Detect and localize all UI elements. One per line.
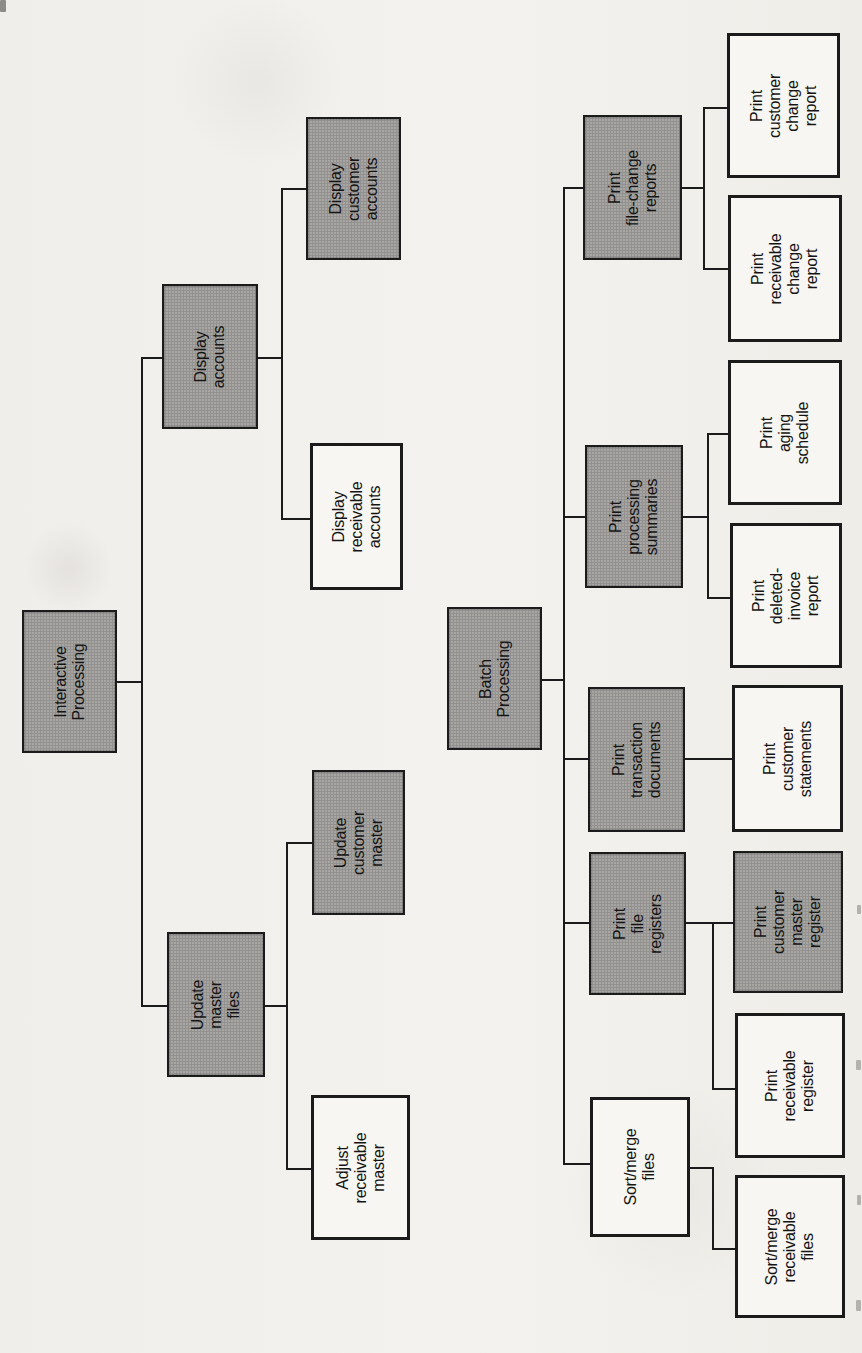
node-print-aging-schedule: Print aging schedule [728, 360, 842, 505]
node-print-file-change-reports: Print file-change reports [583, 115, 682, 260]
connector-line [141, 1005, 167, 1007]
node-label-display-receivable-accounts: Display receivable accounts [329, 447, 383, 586]
connector-line [712, 1167, 714, 1248]
connector-line [141, 357, 162, 359]
node-print-transaction-documents: Print transaction documents [588, 687, 685, 832]
node-label-update-master-files: Update master files [189, 936, 243, 1073]
connector-line [286, 842, 312, 844]
connector-line [141, 357, 143, 1005]
node-print-deleted-invoice-report: Print deleted- invoice report [730, 523, 842, 668]
connector-line [281, 188, 306, 190]
connector-line [542, 679, 563, 681]
node-interactive-processing: Interactive Processing [22, 610, 117, 753]
node-batch-processing: Batch Processing [447, 607, 542, 750]
connector-line [712, 1248, 735, 1250]
node-print-file-registers: Print file registers [589, 852, 686, 995]
node-label-batch-processing: Batch Processing [476, 611, 512, 746]
connector-line [686, 922, 733, 924]
node-sort-merge-files: Sort/merge files [590, 1097, 690, 1237]
node-label-display-accounts: Display accounts [192, 288, 228, 425]
connector-line [685, 758, 732, 760]
connector-line [707, 433, 709, 597]
scan-artifact [856, 1060, 861, 1070]
connector-line [707, 597, 730, 599]
node-label-print-customer-master-register: Print customer master register [752, 855, 824, 989]
node-label-print-file-registers: Print file registers [610, 856, 664, 991]
node-label-print-file-change-reports: Print file-change reports [605, 119, 659, 256]
node-print-processing-summaries: Print processing summaries [585, 445, 683, 588]
connector-line [258, 357, 281, 359]
connector-line [712, 922, 714, 1088]
scan-artifact [857, 1195, 861, 1205]
scan-artifact [856, 1300, 861, 1311]
node-label-update-customer-master: Update customer master [331, 774, 385, 911]
connector-line [707, 433, 728, 435]
connector-line [563, 187, 583, 189]
node-sort-merge-receivable-files: Sort/merge receivable files [735, 1175, 845, 1318]
node-print-customer-master-register: Print customer master register [733, 851, 843, 993]
connector-line [563, 187, 565, 1163]
node-update-master-files: Update master files [167, 932, 265, 1077]
connector-line [281, 518, 310, 520]
connector-line [703, 107, 705, 268]
node-print-receivable-register: Print receivable register [735, 1013, 845, 1158]
connector-line [683, 516, 707, 518]
connector-line [563, 758, 588, 760]
scan-artifact [857, 905, 861, 914]
node-print-customer-change-report: Print customer change report [727, 33, 840, 178]
node-display-receivable-accounts: Display receivable accounts [310, 443, 403, 590]
node-print-customer-statements: Print customer statements [732, 685, 843, 832]
connector-line [563, 1163, 590, 1165]
connector-line [563, 922, 589, 924]
node-display-customer-accounts: Display customer accounts [306, 117, 401, 260]
node-display-accounts: Display accounts [162, 284, 258, 429]
node-label-print-transaction-documents: Print transaction documents [609, 691, 663, 828]
node-label-display-customer-accounts: Display customer accounts [326, 121, 380, 256]
node-label-print-aging-schedule: Print aging schedule [758, 364, 812, 501]
connector-line [265, 1005, 286, 1007]
node-label-print-receivable-change-report: Print receivable change report [749, 199, 821, 338]
node-label-print-deleted-invoice-report: Print deleted- invoice report [750, 527, 822, 664]
connector-line [690, 1167, 712, 1169]
node-print-receivable-change-report: Print receivable change report [728, 195, 842, 342]
connector-line [286, 842, 288, 1168]
connector-line [703, 268, 728, 270]
structure-chart-figure: Interactive ProcessingDisplay accountsDi… [0, 0, 862, 1353]
connector-line [286, 1168, 311, 1170]
node-label-print-customer-statements: Print customer statements [760, 689, 814, 828]
connector-line [563, 516, 585, 518]
node-label-adjust-receivable-master: Adjust receivable master [333, 1099, 387, 1236]
connector-line [117, 681, 141, 683]
node-label-sort-merge-receivable-files: Sort/merge receivable files [763, 1179, 817, 1314]
node-adjust-receivable-master: Adjust receivable master [311, 1095, 410, 1240]
connector-line [712, 1088, 735, 1090]
node-label-print-processing-summaries: Print processing summaries [607, 449, 661, 584]
node-label-print-customer-change-report: Print customer change report [747, 37, 819, 174]
node-label-interactive-processing: Interactive Processing [51, 614, 87, 749]
scan-artifact [0, 0, 6, 12]
node-label-print-receivable-register: Print receivable register [763, 1017, 817, 1154]
node-update-customer-master: Update customer master [312, 770, 405, 915]
node-label-sort-merge-files: Sort/merge files [622, 1101, 658, 1233]
connector-line [703, 107, 727, 109]
connector-line [281, 188, 283, 518]
connector-line [682, 187, 703, 189]
